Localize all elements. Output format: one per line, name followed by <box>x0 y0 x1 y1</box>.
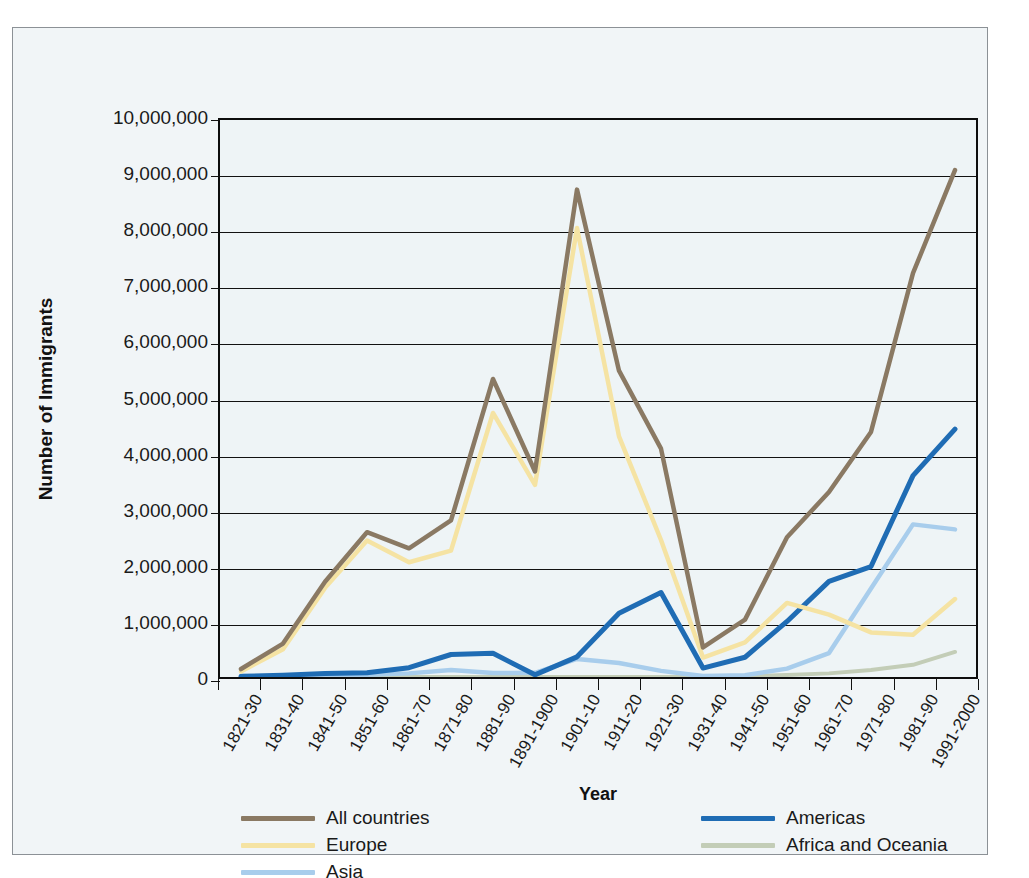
y-axis-tick-label: 7,000,000 <box>123 275 208 297</box>
y-axis-tick-label: 10,000,000 <box>113 107 208 129</box>
legend-label: Asia <box>326 861 363 878</box>
x-axis-tick <box>387 679 388 690</box>
x-axis-tick <box>682 679 683 690</box>
x-axis-tick <box>725 679 726 690</box>
legend-label: All countries <box>326 807 430 829</box>
legend-column-left: All countriesEuropeAsia <box>241 806 430 878</box>
y-axis-tick-label: 1,000,000 <box>123 612 208 634</box>
legend-color-swatch <box>701 816 775 821</box>
x-axis-tick <box>598 679 599 690</box>
x-axis-tick <box>429 679 430 690</box>
y-axis-tick-label: 2,000,000 <box>123 556 208 578</box>
chart-outer-frame: Number of Immigrants 01,000,0002,000,000… <box>12 27 988 855</box>
x-axis-tick <box>767 679 768 690</box>
series-lines <box>220 120 976 677</box>
y-axis-tick <box>211 176 220 177</box>
x-axis-tick <box>640 679 641 690</box>
legend-color-swatch <box>241 843 315 848</box>
series-line-all-countries <box>241 170 955 669</box>
legend-item[interactable]: Asia <box>241 860 430 878</box>
legend-item[interactable]: Americas <box>701 806 948 830</box>
x-axis-ticks <box>218 679 978 691</box>
y-axis-tick <box>211 401 220 402</box>
legend-item[interactable]: All countries <box>241 806 430 830</box>
y-axis-tick <box>211 513 220 514</box>
y-axis-tick <box>211 625 220 626</box>
x-axis-tick <box>345 679 346 690</box>
legend-item[interactable]: Europe <box>241 833 430 857</box>
plot-area <box>218 118 978 679</box>
y-axis-tick-label: 4,000,000 <box>123 444 208 466</box>
x-axis-tick <box>894 679 895 690</box>
y-axis-tick <box>211 120 220 121</box>
legend-color-swatch <box>241 870 315 875</box>
y-axis-tick-label: 9,000,000 <box>123 163 208 185</box>
y-axis-tick-label: 5,000,000 <box>123 388 208 410</box>
y-axis-tick <box>211 232 220 233</box>
y-axis-tick <box>211 288 220 289</box>
legend-column-right: AmericasAfrica and Oceania <box>701 806 948 860</box>
x-axis-tick <box>471 679 472 690</box>
x-axis-tick <box>936 679 937 690</box>
legend-item[interactable]: Africa and Oceania <box>701 833 948 857</box>
x-axis-tick <box>302 679 303 690</box>
y-axis-tick-label: 3,000,000 <box>123 500 208 522</box>
immigration-line-chart-figure: Number of Immigrants 01,000,0002,000,000… <box>0 0 1029 878</box>
legend-label: Americas <box>786 807 865 829</box>
x-axis-tick <box>556 679 557 690</box>
y-axis-tick-label: 0 <box>197 668 208 690</box>
y-axis-tick <box>211 569 220 570</box>
legend-color-swatch <box>701 843 775 848</box>
x-axis-tick <box>978 679 979 690</box>
y-axis-tick-label: 6,000,000 <box>123 331 208 353</box>
chart-legend: All countriesEuropeAsia AmericasAfrica a… <box>241 806 981 876</box>
series-line-europe <box>241 228 955 671</box>
legend-color-swatch <box>241 816 315 821</box>
series-line-asia <box>241 524 955 677</box>
x-axis-tick <box>260 679 261 690</box>
legend-label: Africa and Oceania <box>786 834 948 856</box>
x-axis-tick <box>809 679 810 690</box>
x-axis-tick <box>851 679 852 690</box>
y-axis-tick <box>211 457 220 458</box>
y-axis-tick-label: 8,000,000 <box>123 219 208 241</box>
legend-label: Europe <box>326 834 387 856</box>
x-axis-title: Year <box>218 784 978 805</box>
x-axis-tick <box>218 679 219 690</box>
x-axis-tick-labels: 1821-301831-401841-501851-601861-701871-… <box>218 691 978 786</box>
y-axis-tick <box>211 344 220 345</box>
x-axis-tick <box>514 679 515 690</box>
